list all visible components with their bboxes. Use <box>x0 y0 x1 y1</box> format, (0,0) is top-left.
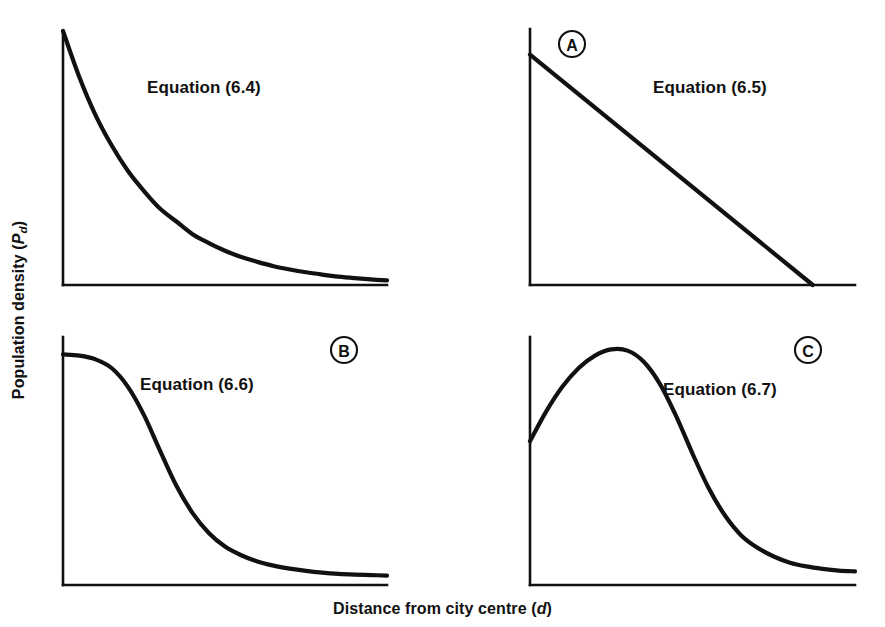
x-axis-title: Distance from city centre (d) <box>0 600 885 618</box>
x-axis-title-symbol: d <box>537 600 547 617</box>
panel2-badge-a: A <box>559 31 585 57</box>
panel-equation-6-7: C <box>530 337 855 585</box>
x-axis-title-paren-close: ) <box>547 600 552 617</box>
panel1-curve-negative-exponential <box>63 31 387 280</box>
y-axis-title: Population density (Pd) <box>10 100 29 520</box>
panel-equation-6-5: A <box>530 29 855 285</box>
y-axis-title-paren-close: ) <box>10 221 27 226</box>
panel3-badge-b: B <box>331 337 357 363</box>
x-axis-title-paren-open: ( <box>527 600 537 617</box>
panel4-badge-c: C <box>795 337 821 363</box>
equation-label-6-5: Equation (6.5) <box>653 78 767 98</box>
y-axis-title-symbol: P <box>10 233 27 244</box>
y-axis-title-paren-open: ( <box>10 244 27 254</box>
badge-letter-c: C <box>802 343 814 360</box>
figure-root: A B C Equation (6.4) Equation (6.5) <box>0 0 885 627</box>
y-axis-title-wrapper: Population density (Pd) <box>10 100 36 520</box>
equation-label-6-7: Equation (6.7) <box>663 380 777 400</box>
badge-letter-a: A <box>566 37 578 54</box>
equation-label-6-6: Equation (6.6) <box>140 375 254 395</box>
y-axis-title-main: Population density <box>10 254 27 399</box>
x-axis-title-main: Distance from city centre <box>333 600 527 617</box>
badge-letter-b: B <box>338 343 350 360</box>
panel-equation-6-4 <box>63 31 387 285</box>
equation-label-6-4: Equation (6.4) <box>147 78 261 98</box>
y-axis-title-subscript: d <box>17 226 29 233</box>
